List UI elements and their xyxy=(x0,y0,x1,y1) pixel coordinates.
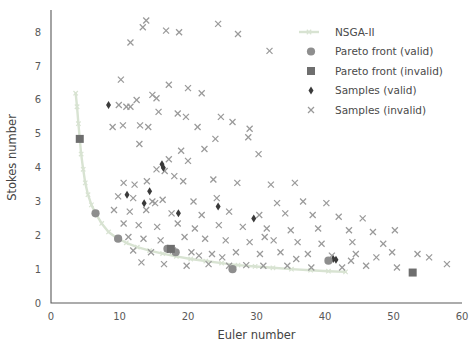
x-tick-label-60: 60 xyxy=(456,311,469,322)
marker-cross xyxy=(138,259,144,265)
x-tick-label-30: 30 xyxy=(250,311,263,322)
marker-cross xyxy=(144,178,150,184)
marker-cross xyxy=(267,48,273,54)
marker-cross xyxy=(310,212,316,218)
marker-square xyxy=(76,135,84,143)
marker-cross xyxy=(182,234,188,240)
marker-cross xyxy=(370,229,376,235)
marker-cross xyxy=(127,39,133,45)
scatter-plot-figure: 0102030405060012345678Euler numberStokes… xyxy=(0,0,472,349)
marker-cross xyxy=(115,193,121,199)
marker-cross xyxy=(234,180,240,186)
y-tick-label-8: 8 xyxy=(35,27,41,38)
marker-cross xyxy=(134,97,140,103)
marker-cross xyxy=(256,212,262,218)
x-axis-title: Euler number xyxy=(217,328,295,342)
marker-cross xyxy=(130,195,136,201)
marker-diamond xyxy=(106,101,111,109)
marker-cross xyxy=(293,256,299,262)
marker-cross xyxy=(353,251,359,257)
marker-cross xyxy=(262,234,268,240)
marker-cross xyxy=(392,227,398,233)
marker-cross xyxy=(288,227,294,233)
marker-cross xyxy=(192,226,198,232)
marker-cross xyxy=(214,195,220,201)
marker-cross xyxy=(308,107,314,113)
marker-cross xyxy=(145,124,151,130)
marker-cross xyxy=(152,200,158,206)
marker-cross xyxy=(136,141,142,147)
marker-cross xyxy=(426,254,432,260)
x-tick-label-10: 10 xyxy=(113,311,126,322)
marker-cross xyxy=(282,210,288,216)
marker-diamond xyxy=(251,214,256,222)
marker-diamond xyxy=(142,199,147,207)
marker-cross xyxy=(389,249,395,255)
marker-cross xyxy=(444,261,450,267)
marker-cross xyxy=(336,214,342,220)
marker-cross xyxy=(184,263,190,269)
marker-cross xyxy=(210,176,216,182)
marker-cross xyxy=(274,200,280,206)
marker-cross xyxy=(292,180,298,186)
x-tick-label-20: 20 xyxy=(182,311,195,322)
marker-cross xyxy=(171,173,177,179)
marker-cross xyxy=(188,249,194,255)
marker-cross xyxy=(212,136,218,142)
marker-cross xyxy=(223,237,229,243)
marker-cross xyxy=(140,236,146,242)
marker-cross xyxy=(127,209,133,215)
marker-diamond xyxy=(309,87,314,95)
y-tick-label-6: 6 xyxy=(35,94,41,105)
marker-cross xyxy=(247,239,253,245)
y-tick-label-3: 3 xyxy=(35,196,41,207)
marker-cross xyxy=(268,182,274,188)
marker-cross xyxy=(230,119,236,125)
marker-cross xyxy=(121,220,127,226)
legend-label-nsga-ii: NSGA-II xyxy=(335,26,375,38)
marker-cross xyxy=(277,249,283,255)
marker-cross xyxy=(305,251,311,257)
marker-cross xyxy=(176,29,182,35)
marker-cross xyxy=(160,197,166,203)
marker-cross xyxy=(201,146,207,152)
marker-cross xyxy=(190,198,196,204)
marker-circle xyxy=(307,47,315,55)
x-tick-label-50: 50 xyxy=(387,311,400,322)
marker-cross xyxy=(226,209,232,215)
marker-cross xyxy=(111,207,117,213)
marker-cross xyxy=(110,124,116,130)
y-tick-label-0: 0 xyxy=(35,298,41,309)
marker-cross xyxy=(219,254,225,260)
marker-cross xyxy=(315,226,321,232)
marker-cross xyxy=(199,90,205,96)
marker-cross xyxy=(195,124,201,130)
marker-cross xyxy=(121,180,127,186)
marker-cross xyxy=(169,210,175,216)
y-tick-label-2: 2 xyxy=(35,230,41,241)
marker-cross xyxy=(414,251,420,257)
marker-cross xyxy=(300,198,306,204)
marker-cross xyxy=(218,114,224,120)
marker-square xyxy=(167,245,175,253)
marker-cross xyxy=(143,17,149,23)
marker-cross xyxy=(380,241,386,247)
y-axis-title: Stokes number xyxy=(5,114,19,201)
marker-cross xyxy=(132,182,138,188)
marker-cross xyxy=(245,134,251,140)
marker-cross xyxy=(346,227,352,233)
marker-cross xyxy=(349,239,355,245)
marker-cross xyxy=(143,207,149,213)
x-tick-label-0: 0 xyxy=(48,311,54,322)
marker-cross xyxy=(163,28,169,34)
marker-cross xyxy=(166,82,172,88)
marker-cross xyxy=(233,249,239,255)
marker-cross xyxy=(118,77,124,83)
marker-cross xyxy=(154,224,160,230)
marker-diamond xyxy=(176,209,181,217)
marker-cross xyxy=(339,264,345,270)
marker-cross xyxy=(348,258,354,264)
marker-cross xyxy=(257,251,263,257)
marker-cross xyxy=(185,85,191,91)
marker-cross xyxy=(153,166,159,172)
